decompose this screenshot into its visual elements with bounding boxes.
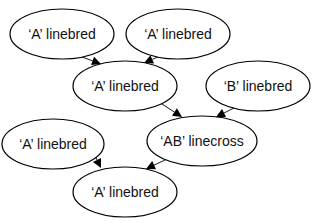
node-n7: ‘A’ linebred <box>73 167 177 217</box>
node-label: ‘B’ linebred <box>224 78 293 94</box>
arrowhead-icon <box>172 108 182 117</box>
nodes-layer: ‘A’ linebred‘A’ linebred‘A’ linebred‘B’ … <box>2 9 310 217</box>
node-label: ‘A’ linebred <box>91 184 159 200</box>
node-label: ‘A’ linebred <box>144 26 212 42</box>
pedigree-diagram: ‘A’ linebred‘A’ linebred‘A’ linebred‘B’ … <box>0 0 312 223</box>
node-n4: ‘B’ linebred <box>206 61 310 111</box>
node-label: ‘A’ linebred <box>91 78 159 94</box>
node-n2: ‘A’ linebred <box>126 9 230 59</box>
node-n6: ‘AB’ linecross <box>147 116 257 166</box>
node-label: ‘A’ linebred <box>28 26 96 42</box>
node-n1: ‘A’ linebred <box>10 9 114 59</box>
node-label: ‘A’ linebred <box>19 136 87 152</box>
node-label: ‘AB’ linecross <box>160 133 244 149</box>
node-n3: ‘A’ linebred <box>73 61 177 111</box>
node-n5: ‘A’ linebred <box>2 119 104 169</box>
